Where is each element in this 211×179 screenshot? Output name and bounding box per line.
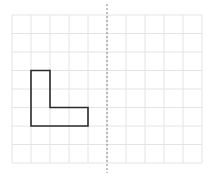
reflection-grid-diagram bbox=[0, 0, 211, 179]
l-shape-outline bbox=[31, 71, 88, 127]
